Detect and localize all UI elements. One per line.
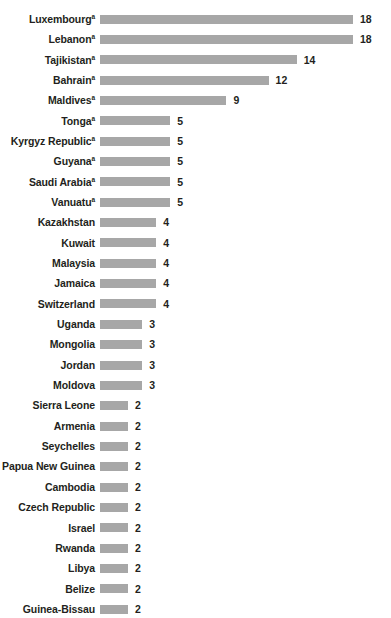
category-label-text: Uganda (57, 318, 95, 330)
category-label-text: Maldives (48, 94, 92, 106)
bar-area: 12 (100, 70, 391, 90)
bar-area: 2 (100, 497, 391, 517)
bar (100, 605, 128, 614)
category-label: Guyanaa (0, 156, 100, 167)
category-label-text: Lebanon (48, 33, 91, 45)
chart-row: Belize2 (0, 579, 391, 599)
bar (100, 55, 297, 64)
bar (100, 177, 170, 186)
bar-area: 5 (100, 151, 391, 171)
footnote-marker: a (91, 33, 95, 40)
category-label-text: Sierra Leone (33, 399, 95, 411)
category-label: Cambodia (0, 482, 100, 493)
chart-row: Lebanona18 (0, 29, 391, 49)
category-label-text: Israel (68, 522, 95, 534)
bar (100, 320, 142, 329)
bar (100, 238, 156, 247)
category-label: Jordan (0, 360, 100, 371)
footnote-marker: a (91, 73, 95, 80)
footnote-marker: a (91, 196, 95, 203)
category-label: Czech Republic (0, 502, 100, 513)
bar (100, 137, 170, 146)
chart-row: Rwanda2 (0, 538, 391, 558)
bar (100, 340, 142, 349)
bar (100, 584, 128, 593)
bar-value-label: 5 (177, 116, 183, 127)
bar-area: 2 (100, 396, 391, 416)
chart-row: Seychelles2 (0, 436, 391, 456)
bar-value-label: 2 (135, 461, 141, 472)
category-label: Vanuatua (0, 197, 100, 208)
bar-value-label: 3 (149, 360, 155, 371)
category-label-text: Saudi Arabia (29, 176, 92, 188)
category-label: Luxembourga (0, 14, 100, 25)
bar-value-label: 2 (135, 543, 141, 554)
chart-row: Jordan3 (0, 355, 391, 375)
category-label-text: Guinea-Bissau (23, 603, 95, 615)
bar-value-label: 4 (163, 217, 169, 228)
category-label: Kyrgyz Republica (0, 136, 100, 147)
bar (100, 462, 128, 471)
footnote-marker: a (91, 12, 95, 19)
footnote-marker: a (91, 53, 95, 60)
bar-value-label: 5 (177, 197, 183, 208)
bar-area: 2 (100, 416, 391, 436)
bar-value-label: 3 (149, 339, 155, 350)
bar-value-label: 4 (163, 278, 169, 289)
chart-row: Sierra Leone2 (0, 396, 391, 416)
chart-row: Vanuatua5 (0, 192, 391, 212)
bar (100, 422, 128, 431)
bar-area: 18 (100, 9, 391, 29)
footnote-marker: a (91, 114, 95, 121)
bar-value-label: 14 (304, 55, 316, 66)
bar-value-label: 18 (360, 14, 372, 25)
chart-row: Jamaica4 (0, 273, 391, 293)
category-label-text: Malaysia (52, 257, 95, 269)
bar-area: 2 (100, 538, 391, 558)
category-label: Armenia (0, 421, 100, 432)
bar-value-label: 2 (135, 584, 141, 595)
bar (100, 544, 128, 553)
bar (100, 35, 353, 44)
bar-value-label: 2 (135, 563, 141, 574)
bar (100, 503, 128, 512)
category-label: Mongolia (0, 339, 100, 350)
chart-row: Israel2 (0, 518, 391, 538)
category-label-text: Belize (65, 583, 95, 595)
bar (100, 361, 142, 370)
category-label-text: Kazakhstan (38, 216, 95, 228)
category-label-text: Tonga (61, 115, 91, 127)
category-label: Kuwait (0, 238, 100, 249)
chart-row: Armenia2 (0, 416, 391, 436)
bar (100, 401, 128, 410)
bar-value-label: 4 (163, 238, 169, 249)
bar-area: 3 (100, 355, 391, 375)
bar (100, 279, 156, 288)
bar-area: 18 (100, 29, 391, 49)
bar-value-label: 9 (233, 95, 239, 106)
chart-row: Switzerland4 (0, 294, 391, 314)
chart-row: Kyrgyz Republica5 (0, 131, 391, 151)
chart-row: Moldova3 (0, 375, 391, 395)
bar-area: 2 (100, 457, 391, 477)
category-label-text: Switzerland (38, 298, 95, 310)
category-label: Tajikistana (0, 55, 100, 66)
bar (100, 218, 156, 227)
bar-value-label: 12 (276, 75, 288, 86)
chart-row: Uganda3 (0, 314, 391, 334)
chart-row: Libya2 (0, 558, 391, 578)
chart-row: Malaysia4 (0, 253, 391, 273)
category-label: Sierra Leone (0, 400, 100, 411)
chart-row: Guinea-Bissau2 (0, 599, 391, 618)
bar-area: 5 (100, 111, 391, 131)
bar-value-label: 4 (163, 299, 169, 310)
category-label: Kazakhstan (0, 217, 100, 228)
category-label: Tongaa (0, 116, 100, 127)
chart-row: Tongaa5 (0, 111, 391, 131)
bar-value-label: 2 (135, 400, 141, 411)
category-label-text: Tajikistan (45, 54, 92, 66)
bar-area: 4 (100, 273, 391, 293)
bar (100, 564, 128, 573)
category-label-text: Mongolia (50, 338, 95, 350)
